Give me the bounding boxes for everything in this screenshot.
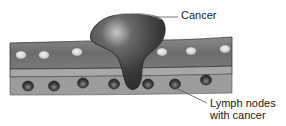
cancer-lymph-diagram: Cancer Lymph nodes with cancer [0,0,286,126]
lymph-nodes-label: Lymph nodes with cancer [210,97,276,121]
lymph-label-line1: Lymph nodes [210,97,276,109]
lower-tissue-layer [10,74,232,95]
cancer-label: Cancer [181,9,216,21]
lymph-label-line2: with cancer [210,109,276,121]
